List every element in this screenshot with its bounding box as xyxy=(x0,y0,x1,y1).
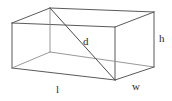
edge-depth-top-right xyxy=(115,12,154,27)
length-label: l xyxy=(56,84,59,95)
edge-back-bottom-hidden xyxy=(50,52,154,67)
diagonal-label: d xyxy=(83,36,89,47)
edge-depth-top-left xyxy=(12,8,50,23)
rectangular-prism-figure: l w h d xyxy=(0,0,172,101)
height-label: h xyxy=(159,33,165,44)
prism-drawing xyxy=(0,0,172,101)
width-label: w xyxy=(132,81,140,92)
edge-depth-bottom-left-hidden xyxy=(12,52,50,68)
edge-depth-bottom-right xyxy=(115,67,154,80)
edge-front-bottom xyxy=(12,68,115,80)
edge-back-top xyxy=(50,8,154,12)
